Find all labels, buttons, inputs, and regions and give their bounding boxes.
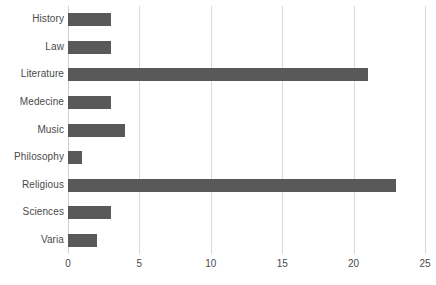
gridline-10 bbox=[211, 6, 212, 254]
bar-chart: HistoryLawLiteratureMedecineMusicPhiloso… bbox=[0, 0, 436, 285]
bar-sciences bbox=[68, 206, 111, 219]
bar-varia bbox=[68, 234, 97, 247]
bar-row bbox=[68, 96, 111, 109]
category-label-literature: Literature bbox=[0, 69, 64, 79]
bar-row bbox=[68, 179, 396, 192]
gridline-25 bbox=[425, 6, 426, 254]
tick-label-10: 10 bbox=[196, 258, 226, 270]
gridline-15 bbox=[282, 6, 283, 254]
gridline-5 bbox=[139, 6, 140, 254]
tick-label-25: 25 bbox=[410, 258, 436, 270]
tick-label-20: 20 bbox=[339, 258, 369, 270]
category-label-varia: Varia bbox=[0, 235, 64, 245]
bar-row bbox=[68, 206, 111, 219]
value-axis-tick-labels: 0510152025 bbox=[0, 258, 436, 280]
tick-label-5: 5 bbox=[124, 258, 154, 270]
bar-row bbox=[68, 234, 97, 247]
bar-history bbox=[68, 13, 111, 26]
category-label-medecine: Medecine bbox=[0, 97, 64, 107]
bar-row bbox=[68, 41, 111, 54]
category-label-music: Music bbox=[0, 125, 64, 135]
bar-philosophy bbox=[68, 151, 82, 164]
category-axis-labels: HistoryLawLiteratureMedecineMusicPhiloso… bbox=[0, 6, 64, 254]
bar-row bbox=[68, 13, 111, 26]
bar-literature bbox=[68, 68, 368, 81]
category-label-law: Law bbox=[0, 42, 64, 52]
bar-law bbox=[68, 41, 111, 54]
bar-row bbox=[68, 68, 368, 81]
bar-music bbox=[68, 124, 125, 137]
tick-label-0: 0 bbox=[53, 258, 83, 270]
bar-row bbox=[68, 124, 125, 137]
category-label-religious: Religious bbox=[0, 180, 64, 190]
bar-row bbox=[68, 151, 82, 164]
bar-religious bbox=[68, 179, 396, 192]
bar-medecine bbox=[68, 96, 111, 109]
category-label-sciences: Sciences bbox=[0, 207, 64, 217]
tick-label-15: 15 bbox=[267, 258, 297, 270]
gridline-20 bbox=[354, 6, 355, 254]
category-label-history: History bbox=[0, 14, 64, 24]
category-label-philosophy: Philosophy bbox=[0, 152, 64, 162]
plot-area bbox=[68, 6, 425, 254]
